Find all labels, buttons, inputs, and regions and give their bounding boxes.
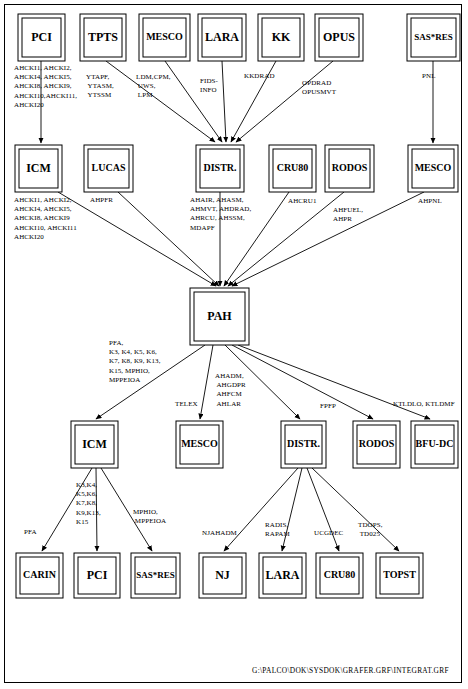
node-pci-bot[interactable]: PCI — [74, 553, 120, 598]
node-label: RODOS — [332, 162, 368, 173]
system-integration-diagram: PCITPTSMESCOLARAKKOPUSSAS*RESICMLUCASDIS… — [0, 0, 468, 689]
edge-label-lbl-sasres-top: PNL — [422, 72, 436, 80]
node-cru80-bot[interactable]: CRU80 — [316, 553, 363, 598]
edge-label-line: K15, MPHIO, — [109, 367, 150, 375]
node-label: DISTR. — [287, 438, 321, 449]
node-carin[interactable]: CARIN — [16, 553, 63, 598]
node-pah[interactable]: PAH — [190, 288, 249, 345]
edge-label-lbl-distr-cru80: UCGDEC — [314, 529, 344, 537]
edge-label-line: UCGDEC — [314, 529, 344, 537]
node-bfudc[interactable]: BFU-DC — [411, 421, 458, 468]
node-label: PAH — [207, 309, 232, 323]
edge-label-line: PNL — [422, 72, 436, 80]
node-icm-r2[interactable]: ICM — [15, 145, 62, 192]
node-opus[interactable]: OPUS — [315, 14, 363, 61]
node-mesco-r4[interactable]: MESCO — [176, 421, 223, 468]
edge-label-line: MPPEIOA — [133, 517, 166, 525]
edge-label-line: TDOPS, — [358, 521, 383, 529]
edge-label-lbl-lara-top: FIDS-INFO — [200, 77, 219, 94]
node-label: MESCO — [146, 31, 183, 42]
node-tpts[interactable]: TPTS — [80, 14, 126, 61]
edge-e-lara-distr — [222, 61, 226, 142]
edge-label-line: AHCKI1, AHCKI2, — [14, 64, 72, 72]
node-mesco-top[interactable]: MESCO — [139, 14, 190, 61]
node-pci-top[interactable]: PCI — [18, 14, 65, 61]
node-label: KK — [272, 30, 291, 44]
edge-label-lbl-icm-sasres: MPHIO, MPPEIOA — [133, 508, 166, 525]
node-sasres-top[interactable]: SAS*RES — [407, 14, 460, 61]
edge-label-line: FIDS- — [200, 77, 219, 85]
node-sasres-bot[interactable]: SAS*RES — [131, 553, 180, 598]
node-distr-r4[interactable]: DISTR. — [281, 421, 326, 468]
edge-label-line: K5,K6, — [76, 490, 97, 498]
node-rodos-r4[interactable]: RODOS — [353, 421, 400, 468]
node-cru80-r2[interactable]: CRU80 — [269, 145, 316, 192]
node-nj[interactable]: NJ — [199, 553, 246, 598]
edge-label-line: PFA — [24, 528, 37, 536]
edge-label-line: K3,K4, — [76, 481, 97, 489]
node-label: TPTS — [88, 30, 118, 44]
edge-label-lbl-mesco-top: LDM,CPM, UWS, LPM — [136, 73, 171, 99]
edge-label-line: YTSSM — [86, 91, 112, 99]
edge-label-line: MPHIO, — [133, 508, 158, 516]
edge-label-line: AHPFR — [90, 196, 113, 204]
node-label: CRU80 — [277, 162, 309, 173]
edge-label-line: AHCKI8, AHCKI9 — [14, 214, 70, 222]
edge-e-mesco-distr — [165, 61, 222, 142]
edge-label-line: AHFUEL, — [333, 206, 363, 214]
edge-label-line: AHMVT, AHDRAD, — [190, 205, 252, 213]
node-topst[interactable]: TOPST — [376, 553, 423, 598]
node-label: SAS*RES — [136, 570, 175, 580]
edge-label-line: TELEX — [175, 400, 198, 408]
node-label: DISTR. — [203, 162, 237, 173]
edge-label-lbl-pah-rodos: FPFP — [320, 402, 336, 410]
edge-label-line: MDAPF — [190, 224, 215, 232]
edge-label-lbl-lucas: AHPFR — [90, 196, 113, 204]
edge-label-line: TD025 — [358, 530, 380, 538]
edge-e-mesco-pah — [232, 192, 424, 286]
edge-e-distr-topst — [312, 468, 399, 551]
edge-label-lbl-rodos-r2: AHFUEL,AHPR — [333, 206, 363, 223]
edge-label-line: OPUSMVT — [302, 88, 337, 96]
node-rodos-r2[interactable]: RODOS — [325, 145, 374, 192]
node-mesco-r2[interactable]: MESCO — [408, 145, 458, 192]
edge-label-line: AHPR — [333, 215, 352, 223]
node-lucas[interactable]: LUCAS — [84, 145, 133, 192]
edge-label-line: AHCKI4, AHCKI5, — [14, 73, 72, 81]
edge-label-line: AHCKI4, AHCKI5, — [14, 205, 72, 213]
edge-label-line: AHCKI20 — [14, 101, 44, 109]
edge-label-lbl-distr-topst: TDOPS, TD025 — [358, 521, 383, 538]
edge-label-line: AHCKI20 — [14, 233, 44, 241]
edge-label-line: KTLDLO, KTLDMF — [393, 400, 455, 408]
edge-label-lbl-pah-distr: AHADM, AHGDPR AHFCM AHLAR — [215, 372, 246, 408]
node-distr-r2[interactable]: DISTR. — [196, 145, 244, 192]
edge-label-line: AHPNL — [418, 197, 442, 205]
edge-label-line: UWS, — [136, 82, 156, 90]
edge-label-line: K3, K4, K5, K6, — [109, 348, 157, 356]
edge-label-line: INFO — [200, 86, 217, 94]
edge-label-lbl-icm-carin: PFA — [24, 528, 37, 536]
edge-e-distr-cru80 — [307, 468, 339, 551]
edge-label-line: MPPEIOA — [109, 376, 140, 384]
edge-label-lbl-pah-mesco: TELEX — [175, 400, 198, 408]
diagram-page: PCITPTSMESCOLARAKKOPUSSAS*RESICMLUCASDIS… — [0, 0, 468, 689]
edge-label-lbl-icm-pci: K3,K4,K5,K6,K7,K8,K9,K13,K15 — [76, 481, 101, 526]
node-label: LARA — [265, 568, 299, 582]
node-label: ICM — [26, 161, 51, 175]
edge-label-lbl-pah-icm: PFA,K3, K4, K5, K6,K7, K8, K9, K13,K15, … — [109, 339, 161, 384]
edge-e-pah-mesco — [200, 345, 213, 419]
edge-label-lbl-pah-bfudc: KTLDLO, KTLDMF — [393, 400, 455, 408]
edge-label-line: AHAIR, AHASM, — [190, 196, 244, 204]
node-label: MESCO — [415, 162, 452, 173]
node-kk[interactable]: KK — [258, 14, 304, 61]
node-label: NJ — [215, 568, 230, 582]
edge-label-line: K15 — [76, 518, 89, 526]
node-lara-top[interactable]: LARA — [198, 14, 246, 61]
node-lara-bot[interactable]: LARA — [259, 553, 306, 598]
edge-label-lbl-distr-lara: RADIS,RAPAM — [265, 521, 290, 538]
edge-label-lbl-distr-r2: AHAIR, AHASM,AHMVT, AHDRAD,AHRCU, AHSSM,… — [190, 196, 252, 232]
node-label: OPUS — [323, 30, 355, 44]
node-icm-r4[interactable]: ICM — [71, 421, 118, 468]
edge-label-lbl-kk: KKDRAD — [244, 72, 275, 80]
node-label: TOPST — [383, 569, 416, 580]
